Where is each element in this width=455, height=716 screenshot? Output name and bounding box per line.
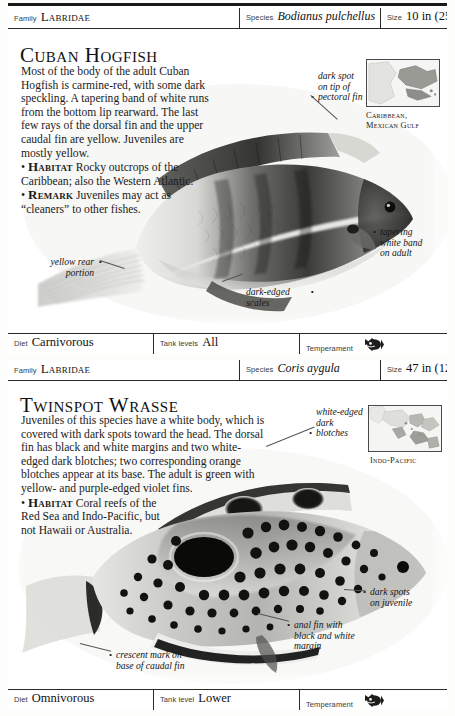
habitat-line: Habitat Rocky outcrops of the Caribbean;… xyxy=(21,160,211,188)
size-cell: Size 47 in (120 cm) xyxy=(381,360,447,380)
aggressive-fish-icon xyxy=(363,693,385,708)
callout-dark-spot-pectoral: dark spot on tip of pectoral fin xyxy=(318,71,363,103)
tank-level-value: Lower xyxy=(198,692,231,705)
entry-footer-bar: Diet Carnivorous Tank levels All Tempera… xyxy=(8,333,447,354)
family-value: Labridae xyxy=(41,10,91,23)
tank-level-cell: Tank levels All xyxy=(154,334,300,354)
species-cell: Species Coris aygula xyxy=(240,360,381,380)
size-cell: Size 10 in (25 cm) xyxy=(381,8,447,28)
remark-keyword: Remark xyxy=(28,187,73,202)
size-value: 47 in (120 cm) xyxy=(406,362,447,375)
family-label: Family xyxy=(14,366,37,375)
entry-header-bar: Family Labridae Species Coris aygula Siz… xyxy=(8,360,447,381)
locality-caption-caribbean: Caribbean, Mexican Gulf xyxy=(366,111,419,130)
callout-crescent-mark-caudal: crescent mark on base of caudal fin xyxy=(116,650,184,671)
tank-level-label: Tank levels xyxy=(160,339,198,348)
species-cell: Species Bodianus pulchellus xyxy=(240,8,381,28)
fish-encyclopedia-page: Family Labridae Species Bodianus pulchel… xyxy=(0,0,455,716)
diet-label: Diet xyxy=(14,339,28,348)
family-cell: Family Labridae xyxy=(8,8,240,28)
diet-value: Omnivorous xyxy=(32,692,95,705)
species-label: Species xyxy=(246,13,273,22)
species-label: Species xyxy=(246,365,273,374)
callout-yellow-rear-portion: yellow rear portion xyxy=(26,257,94,278)
callout-tapering-white-band: tapering white band on adult xyxy=(380,227,422,259)
callout-dark-spots-on-juvenile: dark spots on juvenile xyxy=(370,587,412,608)
locality-caption-indo-pacific: Indo-Pacific xyxy=(370,456,417,466)
habitat-line: Habitat Coral reefs of the Red Sea and I… xyxy=(21,496,171,538)
callout-dark-edged-scales: dark-edged scales xyxy=(246,287,306,308)
entry-body: Cuban Hogfish Most of the body of the ad… xyxy=(8,29,447,333)
species-value: Bodianus pulchellus xyxy=(277,10,375,22)
size-value: 10 in (25 cm) xyxy=(406,10,447,23)
page-title-cuban-hogfish: Cuban Hogfish xyxy=(20,45,158,66)
tank-level-label: Tank level xyxy=(160,695,194,704)
family-cell: Family Labridae xyxy=(8,360,240,380)
species-value: Coris aygula xyxy=(277,362,339,374)
page-top-rule xyxy=(8,3,447,6)
family-label: Family xyxy=(14,14,37,23)
habitat-keyword: Habitat xyxy=(28,159,73,174)
species-entry-twinspot-wrasse: Family Labridae Species Coris aygula Siz… xyxy=(8,360,447,710)
size-label: Size xyxy=(387,365,402,374)
temperament-cell: Temperament xyxy=(300,690,447,710)
diet-label: Diet xyxy=(14,695,28,704)
locality-map-caribbean xyxy=(366,59,440,107)
habitat-keyword: Habitat xyxy=(28,495,73,510)
temperament-label: Temperament xyxy=(306,344,353,353)
aggressive-fish-icon xyxy=(363,337,385,352)
size-label: Size xyxy=(387,13,402,22)
species-entry-cuban-hogfish: Family Labridae Species Bodianus pulchel… xyxy=(8,8,447,354)
entry-footer-bar: Diet Omnivorous Tank level Lower Tempera… xyxy=(8,689,447,710)
description-cuban-hogfish: Most of the body of the adult Cuban Hogf… xyxy=(21,65,211,217)
tank-level-value: All xyxy=(202,336,218,349)
entry-body: Twinspot Wrasse Juveniles of this specie… xyxy=(8,381,447,689)
diet-value: Carnivorous xyxy=(32,336,94,349)
entry-header-bar: Family Labridae Species Bodianus pulchel… xyxy=(8,8,447,29)
temperament-cell: Temperament xyxy=(300,334,447,354)
page-title-twinspot-wrasse: Twinspot Wrasse xyxy=(20,395,178,416)
remark-line: Remark Juveniles may act as “cleaners” t… xyxy=(21,188,211,216)
description-twinspot-wrasse: Juveniles of this species have a white b… xyxy=(21,414,267,537)
tank-level-cell: Tank level Lower xyxy=(154,690,300,710)
description-main: Most of the body of the adult Cuban Hogf… xyxy=(21,65,211,160)
temperament-label: Temperament xyxy=(306,700,353,709)
callout-anal-fin-margin: anal fin with black and white margin xyxy=(294,620,355,652)
locality-map-indo-pacific xyxy=(368,405,442,452)
callout-white-edged-dark-blotches: white-edged dark blotches xyxy=(316,407,363,439)
family-value: Labridae xyxy=(41,362,91,375)
diet-cell: Diet Omnivorous xyxy=(8,690,154,710)
diet-cell: Diet Carnivorous xyxy=(8,334,154,354)
description-main: Juveniles of this species have a white b… xyxy=(21,414,267,496)
